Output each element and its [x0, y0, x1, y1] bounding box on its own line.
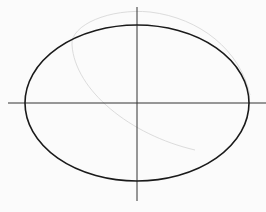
- ellipse-diagram: [0, 0, 266, 212]
- faint-rotated-ellipse-arc: [72, 11, 250, 150]
- diagram-canvas: [0, 0, 266, 212]
